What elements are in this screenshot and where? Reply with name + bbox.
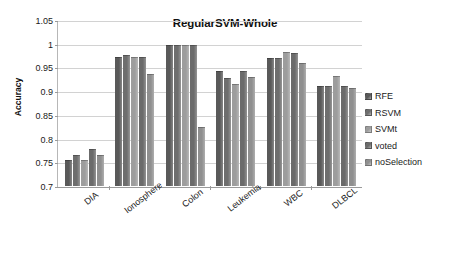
bar	[73, 155, 80, 186]
bar-group: Colon	[160, 21, 211, 186]
x-tick-mark	[109, 186, 110, 190]
y-tick-label: 0.75	[7, 158, 53, 168]
legend-item[interactable]: RFE	[365, 88, 451, 105]
legend-swatch-icon	[365, 126, 372, 133]
legend-swatch-icon	[365, 93, 372, 100]
bar	[131, 57, 138, 186]
y-tick-label: 0.95	[7, 63, 53, 73]
bar-group: Leukemia	[211, 21, 262, 186]
x-axis-category-label: Leukemia	[225, 182, 262, 214]
legend-label: RFE	[375, 91, 393, 101]
y-tick-label: 0.7	[7, 182, 53, 192]
bar	[115, 57, 122, 186]
legend-label: SVMt	[375, 124, 397, 134]
legend-label: voted	[375, 141, 397, 151]
legend-item[interactable]: RSVM	[365, 105, 451, 122]
bar	[248, 77, 255, 186]
y-tick-label: 1	[7, 40, 53, 50]
x-axis-category-label: DLBCL	[330, 185, 359, 211]
bar	[232, 84, 239, 186]
bar	[216, 71, 223, 186]
legend-label: RSVM	[375, 108, 401, 118]
bar-groups: DIAIonosphereColonLeukemiaWBCDLBCL	[59, 21, 362, 186]
y-tick-label: 0.8	[7, 135, 53, 145]
bar	[224, 78, 231, 186]
bar	[166, 45, 173, 186]
bar	[283, 52, 290, 186]
bar	[65, 160, 72, 186]
y-tick-mark	[55, 163, 58, 164]
bar	[349, 88, 356, 186]
y-tick-mark	[55, 187, 58, 188]
plot-area: 0.70.750.80.850.90.9511.05 DIAIonosphere…	[57, 21, 362, 188]
bar	[291, 53, 298, 186]
legend-item[interactable]: noSelection	[365, 154, 451, 171]
bar	[198, 127, 205, 186]
bar	[275, 58, 282, 186]
legend-label: noSelection	[375, 157, 422, 167]
bar	[182, 45, 189, 186]
bar	[190, 45, 197, 186]
bar	[97, 155, 104, 186]
y-tick-label: 0.85	[7, 111, 53, 121]
bar	[81, 160, 88, 186]
bar	[299, 63, 306, 186]
legend: RFERSVMSVMtvotednoSelection	[365, 88, 451, 171]
bar-group: DIA	[59, 21, 110, 186]
x-axis-category-label: DIA	[83, 190, 101, 207]
x-tick-mark	[311, 186, 312, 190]
y-tick-mark	[55, 21, 58, 22]
bar-group: Ionosphere	[110, 21, 161, 186]
bar	[174, 45, 181, 186]
bar	[267, 58, 274, 186]
bar	[317, 86, 324, 186]
y-tick-mark	[55, 116, 58, 117]
x-tick-mark	[210, 186, 211, 190]
y-tick-mark	[55, 68, 58, 69]
y-tick-label: 0.9	[7, 87, 53, 97]
y-tick-label: 1.05	[7, 16, 53, 26]
legend-item[interactable]: voted	[365, 138, 451, 155]
bar	[240, 71, 247, 186]
x-axis-category-label: Colon	[180, 187, 205, 209]
bar-group: WBC	[261, 21, 312, 186]
x-axis-category-label: WBC	[282, 188, 305, 209]
bar	[333, 76, 340, 186]
bar	[341, 86, 348, 186]
y-tick-mark	[55, 140, 58, 141]
legend-swatch-icon	[365, 159, 372, 166]
legend-item[interactable]: SVMt	[365, 121, 451, 138]
bar-chart: RegularSVM-Whole Accuracy 0.70.750.80.85…	[0, 0, 451, 256]
bar	[139, 57, 146, 186]
y-tick-mark	[55, 45, 58, 46]
bar	[147, 74, 154, 186]
y-tick-mark	[55, 92, 58, 93]
bar	[123, 55, 130, 186]
bar-group: DLBCL	[312, 21, 363, 186]
legend-swatch-icon	[365, 109, 372, 116]
bar	[325, 86, 332, 186]
bar	[89, 149, 96, 186]
legend-swatch-icon	[365, 142, 372, 149]
